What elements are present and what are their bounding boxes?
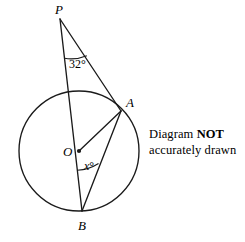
note-line-2: accurately drawn xyxy=(149,142,245,158)
degree-symbol: ° xyxy=(89,159,94,173)
note-prefix: Diagram xyxy=(149,127,197,141)
diagram-canvas: P A O B 32° x° Diagram NOT accurately dr… xyxy=(0,0,245,242)
note-emphasis-not: NOT xyxy=(197,127,224,141)
geometry-figure xyxy=(0,0,245,242)
angle-label-x-degrees: x° xyxy=(84,160,94,172)
segment-OA xyxy=(79,111,121,151)
centre-point-dot xyxy=(77,149,81,153)
vertex-label-P: P xyxy=(55,3,63,16)
vertex-label-A: A xyxy=(126,96,134,109)
note-line-1: Diagram NOT xyxy=(149,126,245,142)
angle-label-32-degrees: 32° xyxy=(69,58,86,70)
vertex-label-B: B xyxy=(78,219,86,232)
not-accurately-drawn-note: Diagram NOT accurately drawn xyxy=(149,126,245,158)
vertex-label-O: O xyxy=(63,145,72,158)
